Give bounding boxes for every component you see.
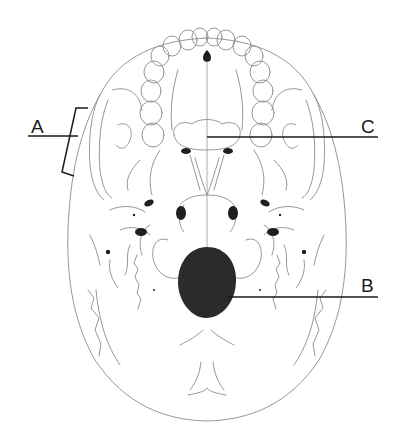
choana-right: [223, 148, 233, 154]
foramen-lacerum-left: [176, 206, 186, 220]
skull-diagram: A C B: [0, 0, 406, 436]
label-c: C: [361, 117, 375, 136]
incisive-foramen: [203, 50, 211, 62]
foramen-lacerum-right: [228, 206, 238, 220]
label-b: B: [361, 276, 374, 295]
foramen-magnum: [178, 247, 236, 318]
choana-left: [181, 148, 191, 154]
label-a: A: [31, 117, 44, 136]
skull-inferior-view-drawing: [0, 0, 406, 436]
jugular-foramen-left: [135, 228, 147, 236]
jugular-foramen-right: [267, 228, 279, 236]
